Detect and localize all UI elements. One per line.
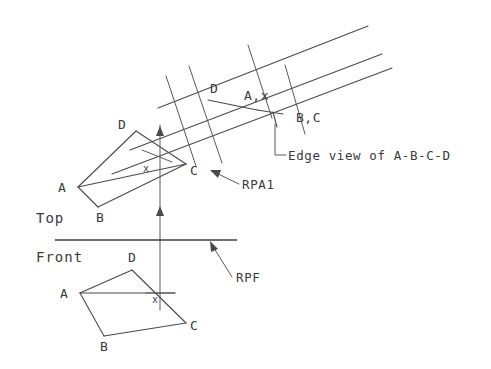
projection-arrow-up-mid [156, 206, 164, 216]
front-view-edge-d-c [132, 270, 186, 323]
rpf-leader [210, 241, 232, 277]
top-view-label-a: A [58, 180, 66, 195]
top-view-polygon [78, 131, 186, 207]
edge-view-leader [275, 124, 286, 155]
front-view-edge-b-a [80, 293, 104, 336]
aux-label-d: D [210, 81, 218, 96]
annotation-rpf: RPF [236, 270, 260, 285]
front-view-polygon [80, 270, 186, 336]
front-view-label-d: D [128, 250, 136, 265]
aux-label-a-x: A,x [244, 88, 269, 103]
rpf-leader-arrow [210, 241, 218, 252]
vertical-projection-line [156, 125, 164, 310]
front-view-edge-a-d [80, 270, 132, 293]
front-view-label-b: B [100, 339, 108, 354]
view-label-front: Front [36, 249, 83, 265]
front-view-label-c: C [190, 318, 198, 333]
top-view-edge-a-d [78, 131, 136, 187]
rpa1-leader [210, 170, 239, 184]
top-view-edge-b-a [78, 187, 98, 207]
top-view-label-b: B [96, 210, 104, 225]
front-view-label-x: x [152, 294, 158, 305]
front-view-label-a: A [60, 286, 68, 301]
aux-label-b-c: B,C [296, 110, 321, 125]
top-view-label-x: x [143, 163, 149, 174]
edge-view-leader-line [275, 124, 286, 155]
top-view-label-d: D [118, 117, 126, 132]
view-label-top: Top [36, 210, 64, 226]
projection-arrow-up-top [156, 126, 164, 136]
rpa1-leader-arrow [210, 170, 221, 178]
top-view-edge-c-b [98, 164, 186, 207]
annotation-edge-view: Edge view of A-B-C-D [288, 148, 451, 163]
engineering-drawing-canvas: D A,x B,C D A B C x D A B C x Top Front … [0, 0, 491, 369]
top-view-label-c: C [190, 163, 198, 178]
projector-line-1 [166, 76, 196, 166]
annotation-rpa1: RPA1 [242, 177, 275, 192]
projector-line-3 [248, 45, 272, 118]
top-view-diagonal-a-c [78, 164, 186, 187]
front-view-edge-c-b [104, 323, 186, 336]
